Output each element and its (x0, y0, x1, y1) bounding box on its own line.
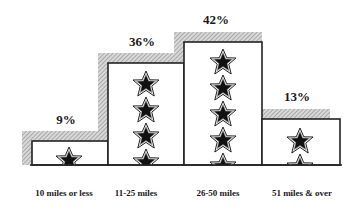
bar-11-25-miles (108, 63, 184, 174)
value-label-4: 13% (284, 89, 310, 104)
category-label-3: 26-50 miles (196, 188, 240, 198)
value-label-3: 42% (203, 12, 229, 27)
category-label-4: 51 miles & over (272, 188, 332, 198)
value-label-1: 9% (56, 112, 76, 127)
category-label-1: 10 miles or less (35, 188, 93, 198)
bar-10-miles-or-less (32, 141, 108, 172)
value-label-2: 36% (129, 34, 155, 49)
bar-51-miles-and-over (262, 119, 340, 179)
category-label-2: 11-25 miles (115, 188, 158, 198)
bar-26-50-miles (184, 42, 262, 178)
bar-chart: 9% 36% 42% 13% 10 miles or less 11-25 mi… (0, 0, 358, 210)
